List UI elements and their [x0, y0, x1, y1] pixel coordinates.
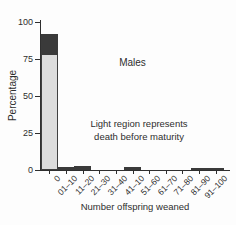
annotation-line-1: Light region represents [58, 118, 220, 131]
y-tick-mark [35, 96, 40, 97]
bar-segment-dark [207, 168, 224, 170]
y-tick-label: 50 [11, 91, 33, 102]
males-annotation: Males [41, 57, 224, 68]
y-tick-mark [35, 170, 40, 171]
y-tick-label: 25 [11, 128, 33, 139]
x-tick-mark [216, 171, 217, 174]
bar-segment-dark [191, 168, 208, 170]
y-tick-label: 100 [11, 17, 33, 28]
x-tick-mark [99, 171, 100, 174]
y-tick-label: 75 [11, 54, 33, 65]
x-tick-mark [199, 171, 200, 174]
bar-segment-dark [124, 167, 141, 170]
light-region-annotation: Light region represents death before mat… [58, 118, 220, 143]
x-tick-mark [149, 171, 150, 174]
bar-01–10 [58, 167, 75, 170]
bar-41–10 [124, 167, 141, 170]
x-tick-mark [66, 171, 67, 174]
bar-chart-figure: Percentage Number offspring weaned Males… [0, 0, 236, 225]
bar-0 [41, 34, 58, 170]
x-tick-mark [133, 171, 134, 174]
bar-11–20 [74, 166, 91, 170]
bar-segment-dark [58, 167, 75, 170]
bar-81–90 [191, 168, 208, 170]
x-tick-mark [116, 171, 117, 174]
bar-segment-light [41, 55, 58, 170]
bar-segment-dark [74, 166, 91, 170]
y-tick-mark [35, 133, 40, 134]
x-tick-mark [182, 171, 183, 174]
x-tick-mark [49, 171, 50, 174]
x-tick-mark [166, 171, 167, 174]
y-tick-label: 0 [11, 165, 33, 176]
bar-91–100 [207, 168, 224, 170]
annotation-line-2: death before maturity [58, 131, 220, 144]
bar-segment-dark [41, 34, 58, 55]
y-tick-mark [35, 22, 40, 23]
y-tick-mark [35, 59, 40, 60]
x-tick-mark [83, 171, 84, 174]
